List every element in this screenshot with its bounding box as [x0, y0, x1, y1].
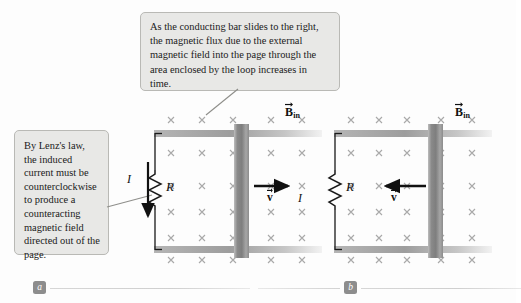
magnetic-field-label: B in — [455, 106, 470, 120]
current-arrow-panel-a — [138, 160, 158, 222]
resistor-symbol — [329, 170, 341, 210]
part-badge-a: a — [33, 281, 46, 294]
part-rule-b-right — [361, 288, 521, 289]
callout-left-text: By Lenz's law, the induced current must … — [24, 140, 100, 260]
sliding-bar — [234, 124, 249, 258]
panel-a-bar-moving-right: B in R v — [148, 108, 324, 270]
v-symbol: v — [391, 191, 397, 203]
panel-a-diagram — [148, 108, 324, 270]
callout-left-lenz-law: By Lenz's law, the induced current must … — [14, 130, 109, 255]
current-label-panel-b: I — [298, 192, 302, 204]
resistor-label: R — [346, 180, 354, 193]
panel-b-diagram — [318, 108, 494, 270]
sliding-bar — [428, 124, 443, 258]
field-marks-into-page — [348, 117, 475, 263]
panel-b-bar-moving-left: B in R v I — [318, 108, 494, 270]
b-symbol: B — [455, 105, 463, 119]
current-label-panel-a: I — [127, 173, 131, 185]
velocity-label: v — [267, 192, 273, 204]
part-rule-b-left — [258, 288, 340, 289]
callout-top-text: As the conducting bar slides to the righ… — [150, 21, 319, 89]
part-rule-a — [50, 288, 250, 289]
velocity-label: v — [391, 192, 397, 204]
part-label-row-b: b — [258, 281, 516, 297]
callout-top-flux-explanation: As the conducting bar slides to the righ… — [140, 12, 340, 91]
circuit-wire — [335, 133, 342, 250]
part-badge-b: b — [344, 281, 357, 294]
v-symbol: v — [267, 191, 273, 203]
b-symbol: B — [285, 105, 293, 119]
rail-bottom — [334, 246, 492, 253]
part-label-row-a: a — [0, 281, 258, 297]
rail-top — [334, 130, 492, 137]
b-subscript: in — [293, 111, 300, 120]
b-subscript: in — [463, 111, 470, 120]
resistor-label: R — [166, 180, 174, 193]
magnetic-field-label: B in — [285, 106, 300, 120]
